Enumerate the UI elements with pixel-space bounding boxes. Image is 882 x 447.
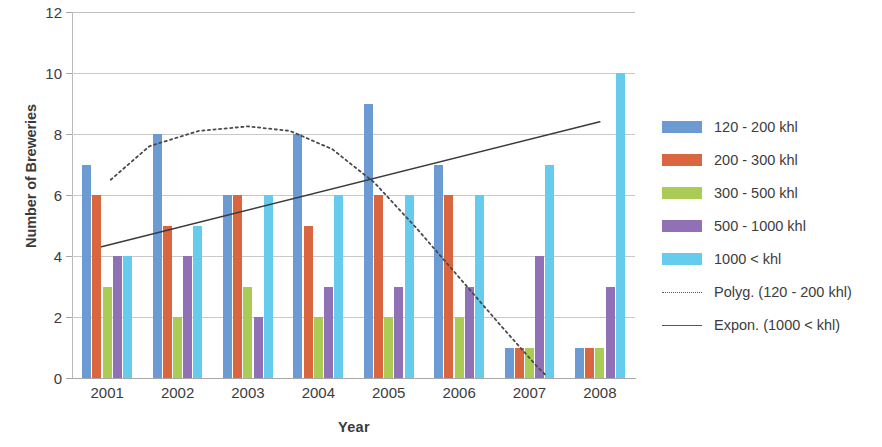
legend-color-swatch bbox=[662, 220, 702, 232]
legend-item[interactable]: 200 - 300 khl bbox=[662, 143, 880, 176]
legend-item[interactable]: Polyg. (120 - 200 khl) bbox=[662, 275, 880, 308]
legend-color-swatch bbox=[662, 154, 702, 166]
bar bbox=[394, 287, 403, 379]
x-tick-label: 2008 bbox=[570, 384, 630, 401]
bar bbox=[314, 317, 323, 378]
legend-item-label: 1000 < khl bbox=[714, 251, 781, 267]
bar-group-2003 bbox=[223, 12, 273, 378]
x-tick-label: 2004 bbox=[288, 384, 348, 401]
bar bbox=[103, 287, 112, 379]
bar bbox=[193, 226, 202, 379]
legend-line-swatch-solid bbox=[662, 319, 702, 331]
bar bbox=[264, 195, 273, 378]
y-axis-tick-labels: 024681012 bbox=[26, 0, 62, 390]
legend-item-label: 500 - 1000 khl bbox=[714, 218, 806, 234]
bar bbox=[123, 256, 132, 378]
legend-item[interactable]: 120 - 200 khl bbox=[662, 110, 880, 143]
x-axis-title: Year bbox=[72, 419, 636, 435]
bar bbox=[243, 287, 252, 379]
x-tick-label: 2005 bbox=[359, 384, 419, 401]
bar bbox=[444, 195, 453, 378]
bar bbox=[535, 256, 544, 378]
bar bbox=[515, 348, 524, 379]
bar-group-2001 bbox=[82, 12, 132, 378]
legend-item-label: Polyg. (120 - 200 khl) bbox=[714, 284, 852, 300]
bar-group-2002 bbox=[153, 12, 203, 378]
bar bbox=[82, 165, 91, 379]
bar-group-2005 bbox=[364, 12, 414, 378]
bar bbox=[153, 134, 162, 378]
y-tick-label: 10 bbox=[26, 65, 62, 82]
bar bbox=[173, 317, 182, 378]
bar bbox=[505, 348, 514, 379]
y-tick-label: 0 bbox=[26, 370, 62, 387]
y-tick-label: 4 bbox=[26, 248, 62, 265]
bar bbox=[595, 348, 604, 379]
legend-item[interactable]: Expon. (1000 < khl) bbox=[662, 308, 880, 341]
plot-area bbox=[72, 12, 635, 378]
legend-item[interactable]: 300 - 500 khl bbox=[662, 176, 880, 209]
x-tick-label: 2001 bbox=[77, 384, 137, 401]
bar bbox=[163, 226, 172, 379]
bar bbox=[616, 73, 625, 378]
bar bbox=[434, 165, 443, 379]
x-tick-label: 2007 bbox=[499, 384, 559, 401]
legend-item-label: 300 - 500 khl bbox=[714, 185, 798, 201]
bar bbox=[334, 195, 343, 378]
legend-color-swatch bbox=[662, 253, 702, 265]
legend-line-swatch-dotted bbox=[662, 286, 702, 298]
bar bbox=[585, 348, 594, 379]
bar bbox=[304, 226, 313, 379]
legend-item-label: 120 - 200 khl bbox=[714, 119, 798, 135]
brewery-bar-chart: Number of Breweries 024681012 2001200220… bbox=[0, 0, 882, 447]
bar bbox=[575, 348, 584, 379]
bar-group-2008 bbox=[575, 12, 625, 378]
legend-item[interactable]: 1000 < khl bbox=[662, 242, 880, 275]
bar bbox=[384, 317, 393, 378]
bar bbox=[545, 165, 554, 379]
legend-item-label: 200 - 300 khl bbox=[714, 152, 798, 168]
bar bbox=[525, 348, 534, 379]
bar bbox=[254, 317, 263, 378]
bar bbox=[293, 134, 302, 378]
bar bbox=[606, 287, 615, 379]
legend-item-label: Expon. (1000 < khl) bbox=[714, 317, 840, 333]
y-tick-label: 8 bbox=[26, 126, 62, 143]
x-tick-label: 2003 bbox=[218, 384, 278, 401]
bar bbox=[324, 287, 333, 379]
bar bbox=[374, 195, 383, 378]
bar bbox=[364, 104, 373, 379]
legend-color-swatch bbox=[662, 187, 702, 199]
bar bbox=[475, 195, 484, 378]
x-axis-line bbox=[72, 378, 636, 379]
x-tick-label: 2006 bbox=[429, 384, 489, 401]
y-tick-label: 12 bbox=[26, 4, 62, 21]
bar bbox=[233, 195, 242, 378]
bar bbox=[405, 195, 414, 378]
bar-group-2007 bbox=[505, 12, 555, 378]
x-tick-label: 2002 bbox=[148, 384, 208, 401]
bar bbox=[113, 256, 122, 378]
y-tick-label: 2 bbox=[26, 309, 62, 326]
bar-group-2004 bbox=[293, 12, 343, 378]
chart-legend: 120 - 200 khl200 - 300 khl300 - 500 khl5… bbox=[662, 110, 880, 341]
legend-color-swatch bbox=[662, 121, 702, 133]
bar bbox=[223, 195, 232, 378]
bar bbox=[92, 195, 101, 378]
y-tick-label: 6 bbox=[26, 187, 62, 204]
x-axis-tick-labels: 20012002200320042005200620072008 bbox=[72, 384, 636, 410]
legend-item[interactable]: 500 - 1000 khl bbox=[662, 209, 880, 242]
bar bbox=[455, 317, 464, 378]
bar bbox=[465, 287, 474, 379]
bar-group-2006 bbox=[434, 12, 484, 378]
bar bbox=[183, 256, 192, 378]
